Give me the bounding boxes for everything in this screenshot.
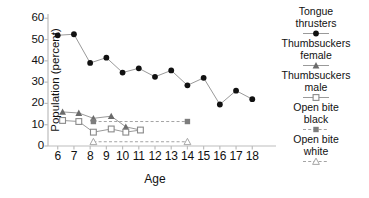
x-tick-label: 17	[230, 150, 243, 162]
legend-entry[interactable]: Thumbsuckersmale	[264, 70, 368, 102]
marker-filled-square	[313, 127, 318, 132]
marker-filled-circle	[201, 75, 207, 81]
marker-filled-circle	[120, 70, 126, 76]
y-tick-label: 20	[32, 98, 44, 110]
x-tick-label: 14	[181, 150, 194, 162]
marker-filled-square	[185, 119, 190, 124]
marker-open-square	[60, 118, 66, 124]
marker-filled-circle	[55, 32, 61, 38]
marker-filled-triangle	[108, 113, 115, 119]
y-tick-label: 10	[32, 119, 44, 131]
x-tick-label: 18	[246, 150, 259, 162]
marker-open-square	[90, 129, 96, 135]
marker-open-square	[76, 119, 82, 125]
marker-open-square	[138, 127, 144, 133]
x-tick-label: 12	[149, 150, 162, 162]
y-tick-label: 0	[38, 140, 44, 152]
marker-filled-circle	[103, 55, 109, 61]
plot-area: 0102030405060 6789101112131415161718	[48, 14, 262, 146]
marker-open-square	[123, 129, 129, 135]
marker-open-square	[108, 126, 114, 132]
legend-key-open-triangle	[299, 157, 333, 166]
legend-label: Thumbsuckersmale	[264, 70, 368, 93]
legend-label: Thumbsuckersfemale	[264, 38, 368, 61]
chart-figure: Population (percent) 0102030405060 67891…	[0, 0, 369, 198]
marker-filled-circle	[168, 68, 174, 74]
x-tick-label: 11	[133, 150, 145, 162]
y-axis-label-container: Population (percent)	[0, 14, 16, 146]
x-tick-label: 9	[103, 150, 109, 162]
series-open-bite-white	[90, 138, 191, 144]
x-tick-label: 10	[116, 150, 129, 162]
legend-label: Tonguethrusters	[264, 6, 368, 29]
series-open-bite-black	[91, 119, 190, 124]
x-tick-label: 8	[87, 150, 93, 162]
legend-entry[interactable]: Thumbsuckersfemale	[264, 38, 368, 70]
marker-filled-circle	[136, 65, 142, 71]
marker-filled-circle	[233, 88, 239, 94]
y-tick-label: 50	[32, 34, 44, 46]
marker-filled-circle	[71, 31, 77, 37]
chart-legend: TonguethrustersThumbsuckersfemaleThumbsu…	[264, 6, 368, 166]
marker-filled-circle	[249, 96, 255, 102]
legend-entry[interactable]: Open biteblack	[264, 102, 368, 134]
plot-svg	[48, 14, 262, 146]
series-line	[58, 34, 253, 104]
y-tick-label: 40	[32, 55, 44, 67]
marker-filled-circle	[185, 82, 191, 88]
legend-label: Open bitewhite	[264, 134, 368, 157]
marker-filled-square	[91, 119, 96, 124]
x-axis-label: Age	[48, 172, 262, 186]
y-tick-label: 30	[32, 76, 44, 88]
x-tick-label: 13	[165, 150, 178, 162]
marker-open-triangle	[184, 138, 191, 144]
legend-label: Open biteblack	[264, 102, 368, 125]
x-tick-label: 6	[54, 150, 60, 162]
marker-open-square	[313, 95, 319, 101]
marker-filled-circle	[313, 31, 319, 37]
marker-filled-circle	[217, 102, 223, 108]
x-tick-label: 15	[197, 150, 210, 162]
marker-filled-circle	[152, 74, 158, 80]
x-tick-label: 7	[71, 150, 77, 162]
x-tick-label: 16	[213, 150, 226, 162]
marker-filled-circle	[87, 60, 93, 66]
y-tick-label: 60	[32, 13, 44, 25]
legend-entry[interactable]: Tonguethrusters	[264, 6, 368, 38]
legend-entry[interactable]: Open bitewhite	[264, 134, 368, 166]
series-thumbsuckers-male	[60, 118, 144, 136]
legend-key	[264, 157, 368, 166]
series-tongue-thrusters	[55, 31, 255, 107]
